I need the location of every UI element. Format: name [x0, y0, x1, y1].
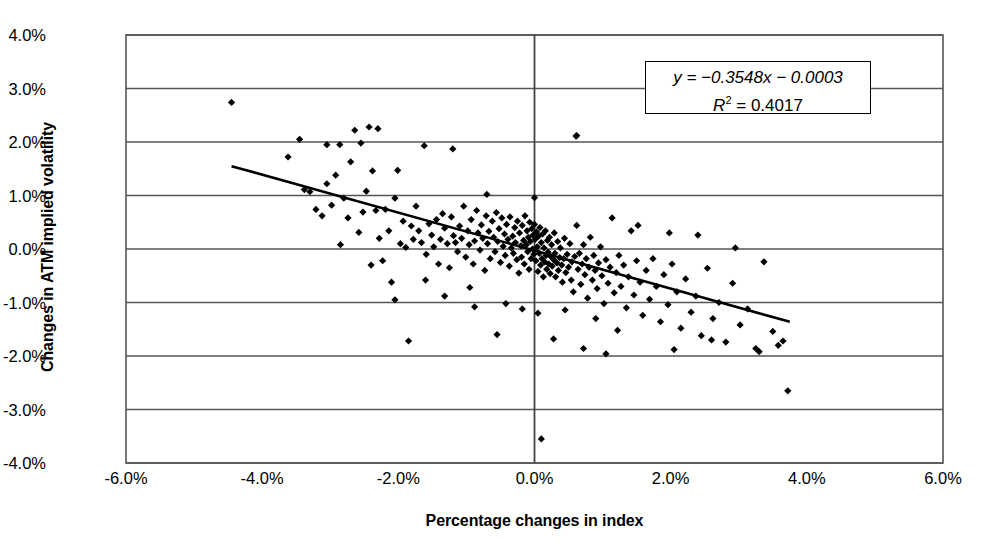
x-tick-label: 0.0%	[516, 470, 554, 486]
data-point	[519, 305, 526, 312]
data-point	[418, 239, 425, 246]
data-point	[410, 236, 417, 243]
data-point	[399, 218, 406, 225]
scatter-chart: Changes in ATM implied volatility Percen…	[0, 0, 998, 548]
data-point	[402, 244, 409, 251]
data-point	[506, 213, 513, 220]
r-squared-value: = 0.4017	[732, 96, 803, 115]
regression-equation: y = −0.3548x − 0.0003	[646, 66, 870, 89]
data-point	[708, 336, 715, 343]
data-point	[284, 153, 291, 160]
r-squared-line: R2 = 0.4017	[646, 89, 870, 117]
data-point	[466, 241, 473, 248]
data-point	[580, 241, 587, 248]
data-point	[600, 300, 607, 307]
data-point	[551, 229, 558, 236]
data-point	[590, 252, 597, 259]
data-point	[614, 327, 621, 334]
data-point	[374, 125, 381, 132]
data-point	[359, 208, 366, 215]
y-tick-label: -3.0%	[3, 402, 46, 418]
data-point	[369, 167, 376, 174]
data-point	[521, 260, 528, 267]
data-point	[620, 261, 627, 268]
data-point	[502, 252, 509, 259]
data-point	[376, 235, 383, 242]
data-point	[594, 285, 601, 292]
data-point	[643, 267, 650, 274]
trendline	[232, 166, 790, 322]
data-point	[471, 237, 478, 244]
x-tick-label: -2.0%	[377, 470, 420, 486]
data-point	[562, 306, 569, 313]
data-point	[428, 231, 435, 238]
data-point	[630, 291, 637, 298]
x-tick-label: 2.0%	[652, 470, 690, 486]
data-point	[415, 227, 422, 234]
data-point	[704, 265, 711, 272]
data-point	[573, 222, 580, 229]
data-point	[628, 227, 635, 234]
data-point	[611, 289, 618, 296]
data-point	[609, 214, 616, 221]
data-point	[570, 288, 577, 295]
data-point	[337, 241, 344, 248]
data-point	[769, 328, 776, 335]
data-point	[657, 318, 664, 325]
data-point	[405, 337, 412, 344]
data-point	[580, 345, 587, 352]
data-point	[540, 273, 547, 280]
data-point	[446, 264, 453, 271]
data-point	[516, 229, 523, 236]
data-point	[388, 279, 395, 286]
data-point	[452, 239, 459, 246]
data-point	[423, 251, 430, 258]
data-point	[470, 260, 477, 267]
data-point	[574, 266, 581, 273]
data-point	[368, 261, 375, 268]
data-point	[639, 312, 646, 319]
data-point	[468, 216, 475, 223]
data-point	[729, 280, 736, 287]
data-point	[422, 276, 429, 283]
data-point	[583, 255, 590, 262]
data-point	[363, 188, 370, 195]
data-point	[357, 139, 364, 146]
data-point	[514, 218, 521, 225]
data-point	[634, 222, 641, 229]
x-tick-label: -4.0%	[241, 470, 284, 486]
data-point	[581, 271, 588, 278]
data-point	[732, 244, 739, 251]
data-point	[538, 435, 545, 442]
data-point	[677, 325, 684, 332]
data-point	[589, 276, 596, 283]
data-point	[760, 258, 767, 265]
data-point	[587, 234, 594, 241]
data-point	[228, 99, 235, 106]
data-point	[566, 240, 573, 247]
data-point	[385, 227, 392, 234]
r-squared-symbol: R	[713, 96, 725, 115]
data-point	[554, 238, 561, 245]
data-point	[668, 260, 675, 267]
data-point	[694, 231, 701, 238]
data-point	[666, 229, 673, 236]
data-point	[573, 132, 580, 139]
data-point	[503, 221, 510, 228]
data-point	[365, 123, 372, 130]
data-point	[483, 212, 490, 219]
data-point	[775, 342, 782, 349]
data-point	[559, 279, 566, 286]
data-point	[439, 210, 446, 217]
data-point	[682, 275, 689, 282]
data-point-group	[228, 99, 791, 443]
data-point	[617, 283, 624, 290]
data-point	[495, 225, 502, 232]
data-point	[483, 191, 490, 198]
data-point	[561, 235, 568, 242]
data-point	[568, 276, 575, 283]
data-point	[502, 300, 509, 307]
data-point	[577, 281, 584, 288]
y-tick-label: 4.0%	[8, 27, 46, 43]
data-point	[485, 228, 492, 235]
